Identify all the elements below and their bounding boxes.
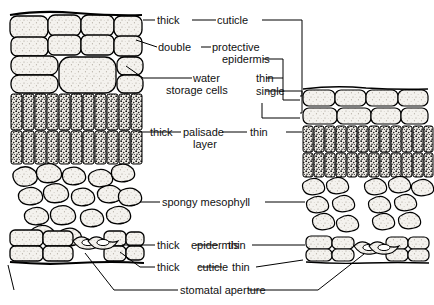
label-water-storage-line2: storage cells — [166, 84, 228, 96]
right-spongy-mesophyll — [302, 176, 433, 231]
label-cuticle-bottom-right-qualifier: thin — [232, 261, 250, 273]
label-palisade-term-line1: palisade — [183, 126, 224, 138]
right-leaf-panel — [302, 87, 433, 264]
right-palisade-layer — [303, 126, 433, 177]
label-palisade-term-line2: layer — [193, 138, 217, 150]
right-lower-epidermis — [306, 236, 429, 263]
label-protective-epidermis-term-line2: epidermis — [222, 53, 270, 65]
figure-canvas: thick cuticle double protective epidermi… — [0, 0, 434, 305]
label-cuticle-top-qualifier: thick — [157, 14, 180, 26]
label-stomatal-aperture: stomatal aperture — [180, 284, 266, 296]
label-cuticle-top-term: cuticle — [217, 14, 248, 26]
label-spongy-mesophyll: spongy mesophyll — [162, 196, 250, 208]
label-cuticle-bottom-term: cuticle — [197, 261, 228, 273]
label-epidermis-bottom-qualifier: thick — [157, 239, 180, 251]
left-leaf-panel — [10, 12, 144, 264]
label-epidermis-bottom-right-qualifier: thin — [228, 239, 246, 251]
label-cuticle-bottom-qualifier: thick — [157, 261, 180, 273]
label-water-storage-right-qualifier: single — [256, 85, 285, 97]
left-palisade-layer — [11, 94, 142, 164]
label-protective-epidermis-term-line1: protective — [212, 41, 260, 53]
left-water-storage-cells — [11, 56, 143, 93]
label-palisade-right-qualifier: thin — [250, 126, 268, 138]
label-water-storage-line1: water — [193, 72, 220, 84]
label-palisade-qualifier: thick — [150, 126, 173, 138]
right-upper-epidermis — [303, 87, 428, 124]
left-upper-epidermis — [10, 12, 142, 56]
label-protective-epidermis-right-qualifier: thin — [256, 72, 274, 84]
label-protective-epidermis-qualifier: double — [158, 41, 191, 53]
